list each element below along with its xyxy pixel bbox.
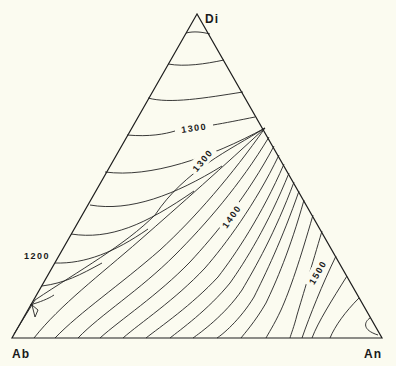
vertex-label-di: Di	[205, 12, 219, 26]
isotherms-diopside-field	[30, 32, 265, 305]
ternary-diagram: Di Ab An 1300 1200 1300 1400 1500	[0, 0, 396, 366]
vertex-label-ab: Ab	[12, 347, 30, 361]
vertex-label-an: An	[364, 347, 382, 361]
isotherm-label-1200: 1200	[24, 251, 50, 261]
ab-corner-feature	[32, 305, 38, 317]
